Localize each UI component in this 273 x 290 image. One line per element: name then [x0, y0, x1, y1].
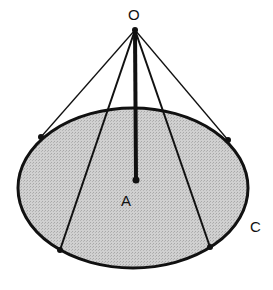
base-circle	[18, 108, 248, 268]
point-right	[225, 137, 231, 143]
apex-point	[132, 27, 138, 33]
point-left	[38, 134, 44, 140]
point-bottom-right	[207, 244, 213, 250]
center-point-A	[133, 177, 140, 184]
cone-diagram: O A C	[0, 0, 273, 290]
point-bottom-left	[57, 247, 63, 253]
label-C: C	[250, 218, 261, 235]
axis-OA	[135, 30, 136, 180]
label-O: O	[128, 6, 140, 23]
label-A: A	[121, 192, 131, 209]
